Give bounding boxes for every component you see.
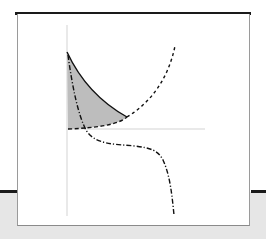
dashed-u-curve <box>127 46 175 117</box>
shaded-region <box>67 52 127 129</box>
diagram-plot <box>0 0 266 239</box>
